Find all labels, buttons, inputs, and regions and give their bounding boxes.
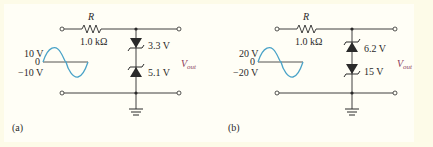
circuit-figure: R 1.0 kΩ 3.3 V 5.1 V 10 V bbox=[0, 0, 433, 147]
zener-bottom-label-b: 15 V bbox=[364, 66, 384, 77]
output-terminal-top-a bbox=[177, 27, 181, 31]
caption-a: (a) bbox=[12, 122, 23, 134]
output-terminal-bottom-a bbox=[177, 91, 181, 95]
source-trough-label-b: −20 V bbox=[233, 67, 259, 78]
input-terminal-top-b bbox=[275, 27, 279, 31]
caption-b: (b) bbox=[228, 122, 240, 134]
source-zero-label-b: 0 bbox=[250, 56, 255, 67]
resistor-b bbox=[297, 25, 316, 33]
source-zero-label-a: 0 bbox=[35, 56, 40, 67]
circuit-a: R 1.0 kΩ 3.3 V 5.1 V 10 V bbox=[12, 11, 197, 134]
ground-icon bbox=[129, 93, 143, 115]
output-terminal-bottom-b bbox=[393, 91, 397, 95]
zener-bottom-label-a: 5.1 V bbox=[148, 67, 171, 78]
zener-top-label-a: 3.3 V bbox=[148, 40, 171, 51]
resistor-symbol-b: R bbox=[302, 11, 309, 22]
zener-top-label-b: 6.2 V bbox=[364, 43, 387, 54]
input-terminal-bottom-a bbox=[60, 91, 64, 95]
ground-icon bbox=[345, 93, 359, 115]
vout-label-b: Vout bbox=[397, 58, 413, 71]
output-terminal-top-b bbox=[393, 27, 397, 31]
resistor-a bbox=[82, 25, 101, 33]
input-terminal-top-a bbox=[60, 27, 64, 31]
resistor-symbol-a: R bbox=[87, 11, 94, 22]
vout-label-a: Vout bbox=[181, 58, 197, 71]
resistor-value-a: 1.0 kΩ bbox=[80, 36, 107, 47]
input-terminal-bottom-b bbox=[275, 91, 279, 95]
source-trough-label-a: −10 V bbox=[18, 67, 44, 78]
resistor-value-b: 1.0 kΩ bbox=[295, 36, 322, 47]
circuit-b: R 1.0 kΩ 6.2 V 15 V 20 V 0 −20 V Vou bbox=[228, 11, 413, 134]
